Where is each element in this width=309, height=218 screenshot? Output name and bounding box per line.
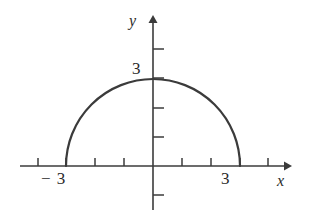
figure-container: y x − 3 3 3 xyxy=(0,0,309,218)
y-axis-label: y xyxy=(129,13,136,29)
y-axis-arrow-icon xyxy=(149,15,158,23)
x-axis-arrow-icon xyxy=(284,162,292,171)
y-tick-label-3: 3 xyxy=(132,60,141,77)
x-tick-label-3: 3 xyxy=(221,170,230,187)
y-axis-ticks xyxy=(153,49,164,195)
x-axis-label: x xyxy=(277,173,284,189)
x-tick-label-minus3: − 3 xyxy=(41,170,66,187)
